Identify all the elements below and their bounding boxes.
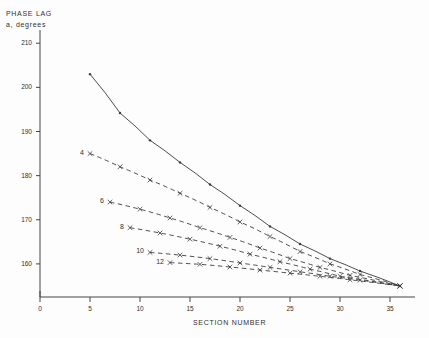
data-point-marker: [269, 225, 271, 227]
data-point-marker: [258, 246, 263, 251]
series-line-8: [130, 228, 400, 286]
data-series-group: [88, 73, 403, 288]
curve-label-10: 10: [128, 247, 144, 254]
y-tick-label: 170: [10, 216, 32, 223]
curve-label-4: 4: [68, 149, 84, 156]
y-axis-title-line1: PHASE LAG: [6, 10, 52, 17]
y-tick-label: 190: [10, 128, 32, 135]
data-point-marker: [178, 253, 183, 258]
data-point-marker: [149, 139, 151, 141]
data-point-marker: [208, 205, 213, 210]
data-point-marker: [318, 265, 323, 270]
x-tick-label: 25: [282, 305, 298, 312]
curve-label-12: 12: [148, 258, 164, 265]
x-axis-title: SECTION NUMBER: [193, 319, 266, 326]
data-point-marker: [178, 191, 183, 196]
data-point-marker: [88, 151, 93, 156]
data-point-marker: [238, 220, 243, 225]
data-point-marker: [329, 257, 331, 259]
data-point-marker: [209, 183, 211, 185]
y-tick-label: 160: [10, 260, 32, 267]
x-tick-label: 30: [332, 305, 348, 312]
data-point-marker: [239, 204, 241, 206]
data-point-marker: [179, 161, 181, 163]
x-tick-label: 20: [232, 305, 248, 312]
x-tick-label: 15: [182, 305, 198, 312]
series-line-12: [170, 263, 400, 286]
y-tick-label: 180: [10, 172, 32, 179]
chart-figure: PHASE LAG a, degrees SECTION NUMBER 1601…: [0, 0, 429, 338]
x-tick-label: 35: [382, 305, 398, 312]
data-point-marker: [228, 235, 233, 240]
data-point-marker: [359, 270, 361, 272]
data-point-marker: [89, 73, 91, 75]
data-point-marker: [298, 249, 303, 254]
y-tick-label: 200: [10, 83, 32, 90]
x-tick-label: 10: [132, 305, 148, 312]
y-axis-title-line2: a, degrees: [6, 21, 46, 28]
data-point-marker: [168, 216, 173, 221]
curve-label-8: 8: [108, 223, 124, 230]
data-point-marker: [118, 165, 123, 170]
curve-label-6: 6: [88, 197, 104, 204]
x-tick-label: 5: [82, 305, 98, 312]
data-point-marker: [268, 234, 273, 239]
x-tick-label: 0: [32, 305, 48, 312]
data-point-marker: [119, 112, 121, 114]
y-tick-label: 210: [10, 39, 32, 46]
data-point-marker: [299, 243, 301, 245]
data-point-marker: [148, 178, 153, 183]
series-line-4: [90, 154, 400, 286]
data-point-marker: [328, 262, 333, 267]
data-point-marker: [288, 256, 293, 261]
plot-area: [0, 0, 429, 338]
data-point-marker: [198, 225, 203, 230]
